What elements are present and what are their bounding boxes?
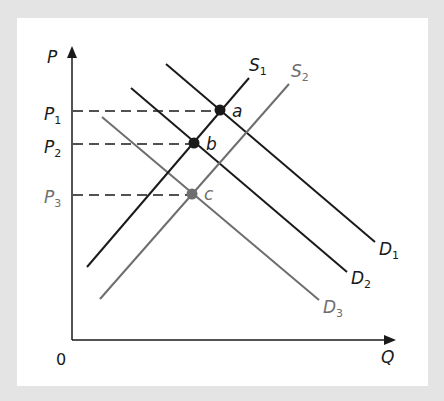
y-axis-label: P xyxy=(47,47,58,67)
demand-label-d2: D2 xyxy=(351,268,371,291)
equilibrium-point-b xyxy=(189,138,200,149)
supply-label-s2: S2 xyxy=(291,61,309,84)
x-axis-label: Q xyxy=(381,347,394,367)
price-label-p2: P2 xyxy=(44,137,61,160)
supply-demand-diagram: P Q 0 P1 P2 P3 S1 S2 D1 D2 D3 a b c xyxy=(0,0,444,401)
demand-curve-d1 xyxy=(166,64,375,242)
supply-curve-s1 xyxy=(87,78,249,267)
x-axis-arrow-icon xyxy=(384,335,396,345)
equilibrium-point-c xyxy=(187,189,198,200)
y-axis-arrow-icon xyxy=(67,46,77,58)
point-label-c: c xyxy=(204,184,214,204)
point-label-a: a xyxy=(232,101,242,121)
demand-label-d3: D3 xyxy=(323,297,343,320)
point-label-b: b xyxy=(206,134,217,154)
price-label-p3: P3 xyxy=(44,187,61,210)
supply-label-s1: S1 xyxy=(249,55,267,78)
demand-label-d1: D1 xyxy=(379,239,399,262)
origin-label: 0 xyxy=(56,350,66,369)
equilibrium-point-a xyxy=(215,105,226,116)
price-label-p1: P1 xyxy=(44,104,61,127)
